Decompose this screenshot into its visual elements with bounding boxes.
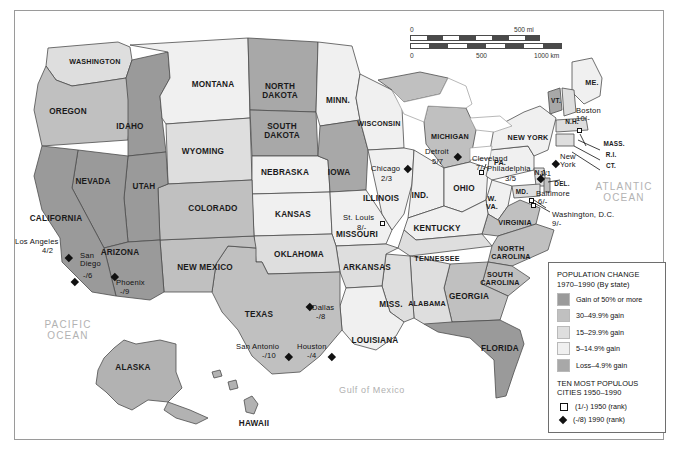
city-label-los-angeles-rank: 4/2 [42, 247, 53, 255]
state-label-massachusetts: MASS. [603, 141, 624, 148]
state-label-idaho: IDAHO [116, 123, 143, 132]
state-shape-north-dakota [248, 38, 318, 112]
city-label-washington-dc-rank: 9/- [552, 220, 561, 228]
state-label-tennessee: TENNESSEE [414, 255, 459, 263]
city-marker-washington-dc[interactable] [531, 203, 536, 208]
state-label-ohio: OHIO [453, 185, 475, 194]
city-label-houston: Houston [297, 343, 327, 351]
state-shape-alaska [96, 340, 182, 410]
city-marker-st-louis[interactable] [380, 221, 385, 226]
state-label-virginia: VIRGINIA [498, 219, 532, 227]
city-label-cleveland-rank: 7/- [476, 164, 485, 172]
scale-km-start: 0 [410, 52, 414, 59]
city-label-boston: Boston10/- [576, 107, 601, 123]
state-label-nebraska: NEBRASKA [261, 169, 309, 178]
city-label-st-louis-rank: 8/- [357, 224, 366, 232]
city-label-detroit: Detroit [425, 148, 449, 156]
state-shape-hawaii [244, 396, 258, 414]
state-label-wyoming: WYOMING [182, 148, 224, 157]
city-label-washington-dc: Washington, D.C. [552, 211, 614, 219]
city-label-san-antonio-rank: -/10 [262, 352, 276, 360]
legend-diamond-icon [559, 415, 567, 423]
legend-title2-line2: CITIES 1950–1990 [557, 388, 658, 398]
legend-swatch-gain15 [557, 326, 570, 339]
legend-key-1990: (-/8) 1990 (rank) [557, 415, 658, 424]
ocean-label-gulf: Gulf of Mexico [339, 386, 405, 395]
scale-km-end: 1000 km [534, 52, 559, 59]
us-map-canvas: PACIFIC OCEAN ATLANTIC OCEAN Gulf of Mex… [0, 0, 678, 456]
state-label-california: CALIFORNIA [30, 215, 82, 224]
city-label-houston-rank: -/4 [307, 352, 316, 360]
state-label-arizona: ARIZONA [101, 249, 140, 258]
state-label-new-york: NEW YORK [507, 134, 548, 142]
state-label-alaska: ALASKA [115, 364, 150, 373]
state-label-west-virginia: W. VA. [486, 195, 498, 210]
state-label-north-carolina: NORTH CAROLINA [491, 245, 531, 260]
city-label-phoenix: Phoenix [116, 279, 145, 287]
city-label-baltimore-rank: 6/- [538, 198, 547, 206]
state-label-delaware: DEL. [554, 181, 569, 188]
state-shape-florida [424, 314, 524, 398]
state-shape-new-hampshire [562, 88, 576, 116]
legend-item-gain30: 30–49.9% gain [557, 309, 658, 322]
legend-label-gain15: 15–29.9% gain [576, 328, 624, 337]
state-label-oklahoma: OKLAHOMA [274, 251, 324, 260]
map-legend: POPULATION CHANGE 1970–1990 (By state) G… [548, 262, 666, 433]
legend-key-1950: (1/-) 1950 (rank) [557, 402, 658, 411]
state-label-minnesota: MINN. [326, 97, 350, 106]
state-label-south-dakota: SOUTH DAKOTA [264, 123, 300, 140]
legend-key-label-1950: (1/-) 1950 (rank) [575, 402, 627, 411]
state-label-arkansas: ARKANSAS [343, 264, 391, 273]
city-label-new-york-rank: 1/1 [540, 170, 551, 178]
state-label-illinois: ILLINOIS [363, 195, 399, 204]
city-label-phoenix-rank: -/9 [120, 288, 129, 296]
city-label-chicago-rank: 2/3 [381, 175, 392, 183]
legend-title-line2: 1970–1990 (By state) [557, 280, 658, 290]
state-label-nevada: NEVADA [75, 178, 110, 187]
city-label-dallas-rank: -/8 [316, 313, 325, 321]
state-label-new-mexico: NEW MEXICO [177, 264, 233, 273]
state-label-kansas: KANSAS [275, 211, 311, 220]
state-shape-connecticut [556, 134, 574, 146]
city-label-san-antonio: San Antonio [236, 343, 279, 351]
legend-label-gain30: 30–49.9% gain [576, 311, 624, 320]
state-label-louisiana: LOUISIANA [352, 337, 399, 346]
state-label-hawaii: HAWAII [239, 420, 269, 429]
state-label-maryland: MD. [516, 189, 528, 196]
legend-square-icon [560, 403, 568, 411]
legend-title2-line1: TEN MOST POPULOUS [557, 379, 658, 389]
legend-item-gain50: Gain of 50% or more [557, 293, 658, 306]
ocean-label-pacific: PACIFIC OCEAN [44, 320, 91, 341]
state-label-rhode-island: R.I. [606, 152, 617, 159]
state-label-vermont: VT. [551, 98, 561, 105]
map-page: PACIFIC OCEAN ATLANTIC OCEAN Gulf of Mex… [0, 0, 678, 456]
city-label-cleveland: Cleveland [472, 155, 508, 163]
scale-bar-miles [410, 35, 540, 41]
state-label-utah: UTAH [133, 183, 156, 192]
state-label-michigan: MICHIGAN [431, 133, 469, 141]
state-label-north-dakota: NORTH DAKOTA [262, 83, 298, 100]
legend-swatch-gain30 [557, 309, 570, 322]
city-label-new-york: New York [560, 153, 576, 169]
legend-label-gain5: 5–14.9% gain [576, 344, 620, 353]
legend-swatch-loss [557, 359, 570, 372]
state-label-connecticut: CT. [606, 163, 616, 170]
state-label-alabama: ALABAMA [408, 300, 446, 308]
state-label-south-carolina: SOUTH CAROLINA [480, 271, 520, 286]
state-label-florida: FLORIDA [481, 345, 519, 354]
scale-miles-start: 0 [410, 26, 414, 33]
state-shape-minnesota [316, 42, 360, 126]
state-label-maine: ME. [585, 79, 598, 87]
legend-key-label-1990: (-/8) 1990 (rank) [573, 415, 625, 424]
state-shape-alaska-tail [164, 402, 208, 424]
legend-swatch-gain50 [557, 293, 570, 306]
scale-bar-km [410, 43, 562, 49]
city-label-detroit-rank: 5/7 [432, 158, 443, 166]
city-label-los-angeles: Los Angeles [15, 238, 59, 246]
legend-item-gain5: 5–14.9% gain [557, 342, 658, 355]
city-marker-boston[interactable] [577, 128, 582, 133]
scale-km-mid: 500 [476, 52, 487, 59]
state-label-oregon: OREGON [49, 108, 87, 117]
state-label-georgia: GEORGIA [449, 293, 489, 302]
city-label-philadelphia: Philadelphia [487, 165, 531, 173]
